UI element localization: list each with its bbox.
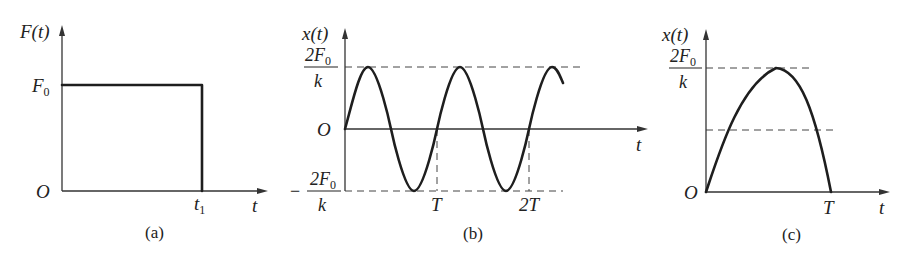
figure: F(t) F0 O t1 t (a) x(t) 2F0 k O − 2F0 [0,0,908,264]
upper-bound-label: 2F0 k [304,45,338,91]
tick-label-t1: t1 [194,193,205,217]
tick-label-T: T [431,194,443,215]
caption-b: (b) [463,224,483,243]
x-axis-label: t [636,134,642,155]
svg-text:k: k [679,72,688,92]
y-axis-label: F(t) [19,21,50,43]
lower-bound-label: − 2F0 k [290,169,341,215]
panel-b: x(t) 2F0 k O − 2F0 k T 2T t (b) [290,23,648,243]
svg-text:2F0: 2F0 [670,46,696,69]
caption-c: (c) [782,225,801,244]
origin-label: O [317,119,331,140]
tick-label-2T: 2T [519,194,541,215]
x-axis-label: t [879,197,885,218]
y-axis-label: x(t) [301,23,328,45]
origin-label: O [36,181,50,202]
force-pulse-curve [62,85,202,191]
x-axis-arrow-icon [257,188,268,194]
x-axis-label: t [252,195,258,216]
tick-label-T: T [823,197,835,218]
svg-text:−: − [290,181,300,201]
origin-label: O [684,182,698,203]
svg-text:k: k [314,71,323,91]
panel-c: x(t) 2F0 k O T t (c) [661,24,890,244]
y-axis-arrow-icon [342,28,348,39]
x-axis-arrow-icon [637,126,648,132]
svg-text:2F0: 2F0 [305,45,331,68]
y-axis-arrow-icon [59,25,65,36]
x-axis-arrow-icon [879,189,890,195]
svg-text:k: k [318,195,327,215]
level-label: F0 [31,75,50,99]
y-axis-arrow-icon [703,29,709,40]
peak-label: 2F0 k [669,46,702,92]
y-axis-label: x(t) [661,24,688,46]
svg-text:2F0: 2F0 [310,169,336,192]
panel-a: F(t) F0 O t1 t (a) [19,21,268,242]
caption-a: (a) [145,223,164,242]
